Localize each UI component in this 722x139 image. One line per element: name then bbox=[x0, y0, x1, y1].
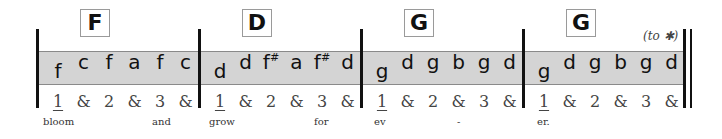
note: g bbox=[532, 59, 556, 83]
note: f# bbox=[259, 50, 283, 74]
lyric: ev bbox=[374, 116, 386, 127]
note: g bbox=[370, 59, 394, 83]
beat-count: & bbox=[236, 92, 256, 111]
beat-count: & bbox=[74, 92, 94, 111]
downbeat-count: 1 bbox=[48, 92, 68, 111]
beat-count: & bbox=[560, 92, 580, 111]
note: g bbox=[583, 50, 607, 74]
chord-box: F bbox=[80, 9, 110, 37]
note: f# bbox=[310, 50, 334, 74]
downbeat-count: 1 bbox=[372, 92, 392, 111]
downbeat-count: 1 bbox=[210, 92, 230, 111]
beat-count: 2 bbox=[261, 92, 281, 111]
beat-count: & bbox=[611, 92, 631, 111]
barline bbox=[522, 29, 525, 108]
beat-count: & bbox=[125, 92, 145, 111]
note: g bbox=[472, 50, 496, 74]
lyric: for bbox=[314, 116, 329, 127]
final-barline-thin bbox=[690, 29, 692, 108]
beat-count: & bbox=[500, 92, 520, 111]
beat-count: & bbox=[176, 92, 196, 111]
beat-count: & bbox=[287, 92, 307, 111]
lyric: er. bbox=[537, 116, 550, 127]
beat-count: 3 bbox=[150, 92, 170, 111]
barline bbox=[360, 29, 363, 108]
note: g bbox=[421, 50, 445, 74]
note: f bbox=[97, 50, 121, 74]
beat-count: 2 bbox=[585, 92, 605, 111]
note: d bbox=[208, 59, 232, 83]
note: c bbox=[174, 50, 198, 74]
note: d bbox=[558, 50, 582, 74]
barline bbox=[198, 29, 201, 108]
beat-count: & bbox=[398, 92, 418, 111]
note: d bbox=[336, 50, 360, 74]
beat-count: & bbox=[338, 92, 358, 111]
chord-box: D bbox=[242, 9, 272, 37]
beat-count: & bbox=[449, 92, 469, 111]
note: d bbox=[396, 50, 420, 74]
note: a bbox=[123, 50, 147, 74]
note: c bbox=[72, 50, 96, 74]
beat-count: 2 bbox=[423, 92, 443, 111]
note: d bbox=[498, 50, 522, 74]
lyric: grow bbox=[209, 116, 235, 127]
downbeat-count: 1 bbox=[534, 92, 554, 111]
note: f bbox=[46, 59, 70, 83]
note: b bbox=[447, 50, 471, 74]
lyric: - bbox=[457, 116, 460, 127]
note: d bbox=[660, 50, 684, 74]
beat-count: 3 bbox=[312, 92, 332, 111]
to-coda-marker: (to ✱) bbox=[643, 29, 678, 43]
note: a bbox=[285, 50, 309, 74]
chord-box: G bbox=[566, 9, 596, 37]
beat-count: & bbox=[662, 92, 682, 111]
chord-box: G bbox=[404, 9, 434, 37]
note: f bbox=[148, 50, 172, 74]
note: d bbox=[234, 50, 258, 74]
beat-count: 3 bbox=[636, 92, 656, 111]
note: g bbox=[634, 50, 658, 74]
note: b bbox=[609, 50, 633, 74]
beat-count: 3 bbox=[474, 92, 494, 111]
barline bbox=[36, 29, 39, 108]
lyric: bloom bbox=[43, 116, 74, 127]
lyric: and bbox=[152, 116, 171, 127]
beat-count: 2 bbox=[99, 92, 119, 111]
